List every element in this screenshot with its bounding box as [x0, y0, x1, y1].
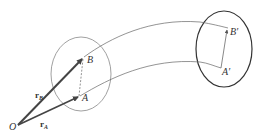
label-b: B [87, 54, 93, 65]
initial-body-outline [51, 37, 111, 111]
label-a-prime: A′ [221, 66, 231, 77]
label-a: A [81, 92, 89, 103]
label-o: O [9, 121, 16, 132]
label-rB: rB [35, 90, 43, 101]
line-ab [79, 59, 83, 96]
line-a-prime-b-prime [221, 30, 227, 68]
vector-rA [18, 97, 78, 125]
rigid-body-diagram: O A B A′ B′ rB rA [0, 0, 273, 138]
vector-rB [18, 59, 82, 125]
path-of-a [80, 61, 221, 96]
path-of-b [84, 21, 228, 57]
label-b-prime: B′ [230, 26, 239, 37]
label-rA: rA [40, 119, 48, 130]
